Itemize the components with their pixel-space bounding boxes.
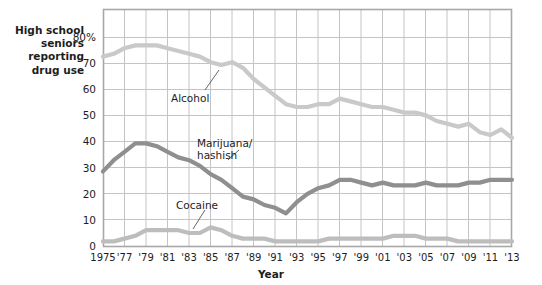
- series-line-alcohol: [103, 45, 512, 137]
- alcohol-leader-line: [205, 70, 219, 90]
- series-label-marijuana: Marijuana/ hashish: [197, 137, 252, 161]
- x-axis-title: Year: [0, 268, 542, 280]
- x-tick-label-2013: '13: [495, 252, 529, 263]
- series-label-marijuana-line-2: hashish: [197, 149, 252, 161]
- series-layer: [103, 45, 512, 241]
- vertical-gridlines: [125, 9, 491, 247]
- drug-use-line-chart: High school seniors reporting drug use 8…: [0, 0, 542, 285]
- series-line-marijuana-hashish: [103, 143, 512, 213]
- plot-area: [0, 0, 542, 285]
- series-label-marijuana-line-1: Marijuana/: [197, 137, 252, 149]
- series-line-cocaine: [103, 227, 512, 241]
- series-label-alcohol: Alcohol: [171, 92, 209, 104]
- series-label-cocaine: Cocaine: [176, 199, 218, 211]
- plot-frame: [104, 10, 512, 247]
